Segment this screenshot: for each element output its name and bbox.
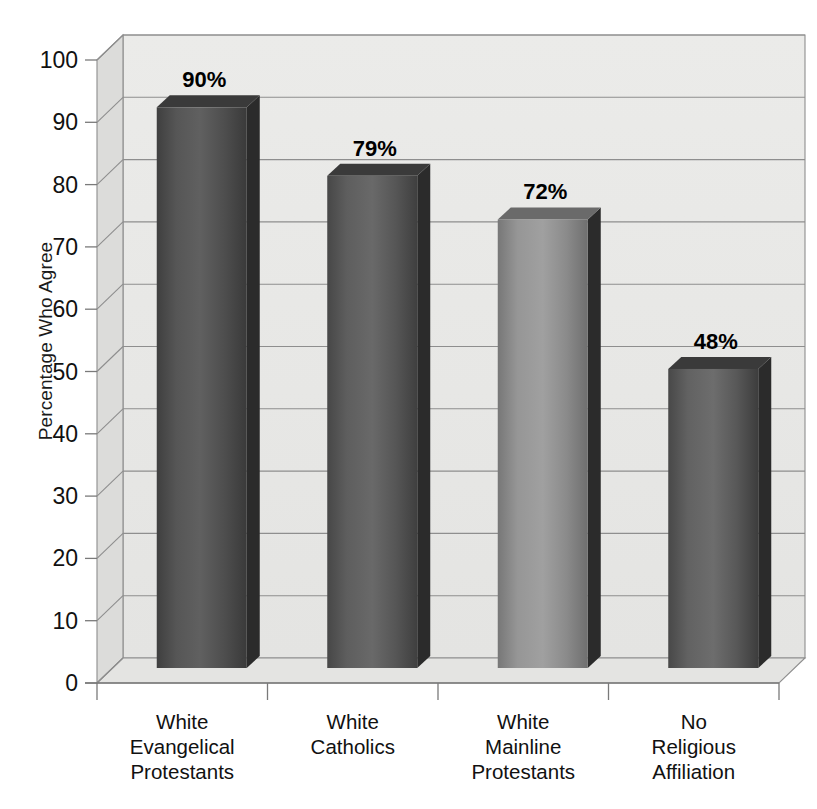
y-axis-tick-label: 50 [52,360,78,383]
x-axis-category-label: White Mainline Protestants [428,709,618,785]
x-axis-category-label: White Evangelical Protestants [87,709,277,785]
bar-value-label: 72% [523,179,567,205]
bar-column [668,357,771,668]
x-axis-category-label: White Catholics [258,709,448,759]
bar-column [327,164,430,668]
chart-canvas [0,0,817,809]
y-axis-tick-label: 90 [52,111,78,134]
bar-value-label: 90% [182,67,226,93]
y-axis-tick-label: 70 [52,235,78,258]
y-axis-tick-label: 10 [52,609,78,632]
bar-value-label: 79% [353,136,397,162]
bar-column [157,95,260,668]
y-axis-tick-label: 40 [52,422,78,445]
y-axis-tick-label: 20 [52,547,78,570]
bar-column [498,207,601,668]
bar-chart: Percentage Who Agree [0,0,817,809]
bar-value-label: 48% [694,329,738,355]
y-axis-tick-label: 80 [52,173,78,196]
y-axis-tick-label: 0 [65,672,78,695]
x-axis-category-label: No Religious Affiliation [599,709,789,785]
y-axis-tick-label: 30 [52,485,78,508]
y-axis-tick-label: 60 [52,298,78,321]
y-axis-tick-label: 100 [40,49,78,72]
